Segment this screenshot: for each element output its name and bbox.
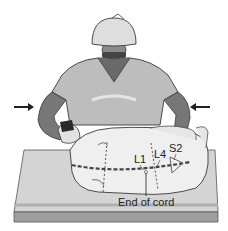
left-arrow-icon: [14, 103, 34, 111]
clinician: [38, 14, 190, 140]
label-end-of-cord: End of cord: [118, 197, 174, 208]
right-arrow-icon: [190, 103, 210, 111]
label-l1: L1: [134, 154, 146, 165]
label-l4: L4: [154, 149, 166, 160]
lumbar-puncture-illustration: L1 L4 S2 End of cord: [0, 0, 228, 231]
label-s2: S2: [169, 143, 182, 154]
